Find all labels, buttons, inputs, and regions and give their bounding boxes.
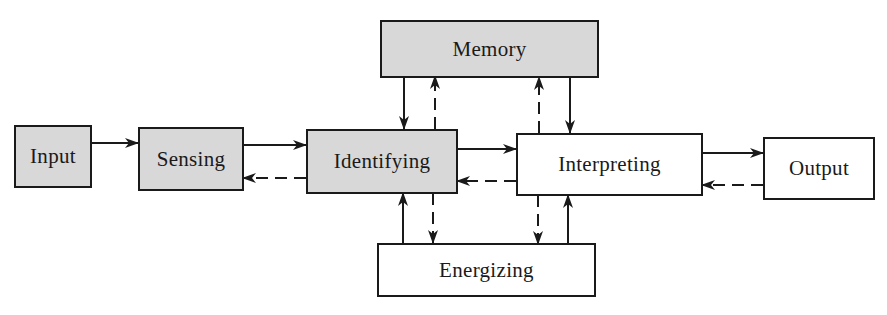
- node-output: Output: [763, 137, 875, 200]
- node-memory: Memory: [380, 20, 599, 78]
- node-identifying: Identifying: [306, 129, 458, 194]
- node-input: Input: [14, 125, 92, 188]
- flow-diagram: Input Sensing Identifying Memory Interpr…: [0, 0, 887, 315]
- node-energizing-label: Energizing: [439, 258, 534, 283]
- node-interpreting-label: Interpreting: [558, 152, 661, 177]
- node-sensing-label: Sensing: [157, 147, 226, 172]
- node-identifying-label: Identifying: [334, 149, 431, 174]
- node-sensing: Sensing: [138, 127, 244, 191]
- node-input-label: Input: [30, 144, 76, 169]
- node-interpreting: Interpreting: [516, 133, 703, 196]
- node-memory-label: Memory: [452, 37, 526, 62]
- node-energizing: Energizing: [377, 243, 596, 297]
- node-output-label: Output: [789, 156, 849, 181]
